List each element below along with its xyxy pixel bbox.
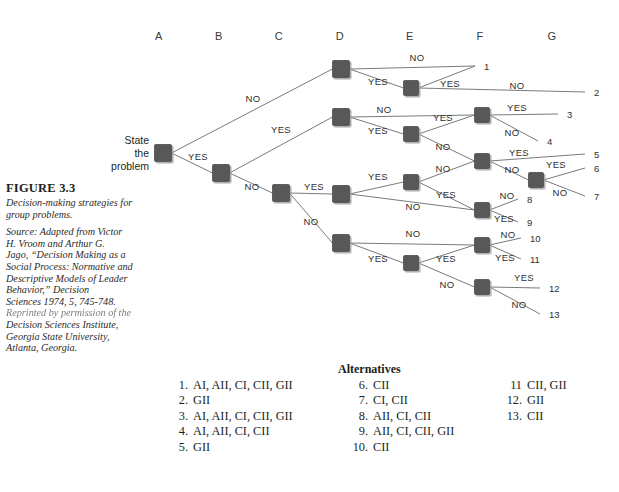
edge-label-yes-F5-out12: YES bbox=[514, 272, 534, 283]
alternative-text: CI, CII bbox=[368, 393, 408, 407]
decision-node-F4[interactable] bbox=[475, 238, 490, 253]
alternative-item-2: 2.GII bbox=[174, 393, 293, 408]
decision-node-C[interactable] bbox=[273, 185, 290, 202]
edge-label-yes-A-B: YES bbox=[188, 151, 208, 162]
edge-label-no-F4-out10: NO bbox=[501, 229, 516, 240]
edge-label-yes-F2-out5: YES bbox=[509, 147, 529, 158]
alternative-number: 7. bbox=[348, 393, 368, 408]
decision-node-B[interactable] bbox=[213, 165, 230, 182]
alternative-text: GII bbox=[188, 440, 210, 454]
decision-node-F5[interactable] bbox=[475, 280, 490, 295]
decision-node-D1[interactable] bbox=[333, 61, 350, 78]
edge-label-no-G1-out7: NO bbox=[553, 187, 568, 198]
edge-label-yes-E3-F3: YES bbox=[436, 189, 456, 200]
source-line-8: Reprinted by permission of the bbox=[6, 307, 131, 318]
alternative-item-10: 10.CII bbox=[348, 440, 454, 455]
alternative-item-11: 11CII, GII bbox=[502, 378, 567, 393]
decision-node-F1[interactable] bbox=[475, 108, 490, 123]
decision-node-G1[interactable] bbox=[529, 173, 544, 188]
alternatives-heading: Alternatives bbox=[338, 362, 401, 377]
tree-edge-C-D3 bbox=[290, 193, 333, 194]
source-line-11: Atlanta, Georgia. bbox=[6, 342, 77, 353]
figure-title: Decision-making strategies for group pro… bbox=[6, 197, 156, 220]
edge-label-no-F3-out8: NO bbox=[500, 190, 515, 201]
outcome-number-3: 3 bbox=[567, 109, 572, 120]
edge-label-no-D4-F4: NO bbox=[406, 228, 421, 239]
decision-node-E2[interactable] bbox=[404, 127, 419, 142]
alternative-item-1: 1.AI, AII, CI, CII, GII bbox=[174, 378, 293, 393]
outcome-number-10: 10 bbox=[530, 233, 541, 244]
edge-label-yes-F1-out3: YES bbox=[507, 102, 527, 113]
alternative-number: 8. bbox=[348, 409, 368, 424]
outcome-number-1: 1 bbox=[484, 61, 489, 72]
edge-label-no-E3-F2: NO bbox=[436, 163, 451, 174]
edge-label-no-D2-F1: NO bbox=[377, 104, 392, 115]
decision-node-E3[interactable] bbox=[404, 175, 419, 190]
edge-label-no-F5-out13: NO bbox=[512, 299, 527, 310]
source-line-7: Sciences 1974, 5, 745-748. bbox=[6, 296, 116, 307]
decision-node-D3[interactable] bbox=[333, 186, 350, 203]
alternatives-column-2: 6.CII7.CI, CII8.AII, CI, CII9.AII, CI, C… bbox=[348, 378, 454, 455]
root-label-layer: Statetheproblem bbox=[111, 134, 149, 172]
edge-label-yes-D3-E3: YES bbox=[368, 171, 388, 182]
alternatives-column-3: 11CII, GII12.GII13.CII bbox=[502, 378, 567, 424]
decision-node-A[interactable] bbox=[155, 145, 172, 162]
alternative-number: 2. bbox=[174, 393, 188, 408]
edge-label-no-E1-out2: NO bbox=[510, 80, 525, 91]
decision-node-F3[interactable] bbox=[475, 203, 490, 218]
edge-label-no-B-C: NO bbox=[245, 181, 260, 192]
alternative-text: AII, CI, CII bbox=[368, 409, 431, 423]
outcome-number-12: 12 bbox=[549, 283, 560, 294]
alternative-number: 9. bbox=[348, 424, 368, 439]
decision-node-E1[interactable] bbox=[404, 81, 419, 96]
alternatives-column-1: 1.AI, AII, CI, CII, GII2.GII3.AI, AII, C… bbox=[174, 378, 293, 455]
outcome-number-4: 4 bbox=[547, 136, 552, 147]
outcome-number-11: 11 bbox=[530, 254, 540, 265]
source-line-2: H. Vroom and Arthur G. bbox=[6, 238, 105, 249]
alternative-text: AI, AII, CI, CII bbox=[188, 424, 270, 438]
edge-label-no-C-D4: NO bbox=[304, 216, 319, 227]
outcome-number-6: 6 bbox=[594, 163, 599, 174]
source-line-1: Source: Adapted from Victor bbox=[6, 226, 122, 237]
figure-3-3: ABCDEFG NOYESYESNOYESNONOYESYESNONOYESYE… bbox=[0, 0, 619, 492]
root-node-label-line-3: problem bbox=[111, 160, 149, 172]
edge-label-no-A-D1: NO bbox=[246, 93, 261, 104]
decision-node-E4[interactable] bbox=[404, 256, 419, 271]
alternative-item-6: 6.CII bbox=[348, 378, 454, 393]
edge-label-yes-D2-E2: YES bbox=[368, 125, 388, 136]
outcome-number-13: 13 bbox=[549, 309, 560, 320]
root-node-label-line-1: State bbox=[124, 134, 149, 146]
alternative-number: 12. bbox=[502, 393, 522, 408]
tree-edge-F5-out12 bbox=[490, 287, 541, 288]
edge-label-yes-D1-E1: YES bbox=[368, 76, 388, 87]
alternative-number: 3. bbox=[174, 409, 188, 424]
figure-source: Source: Adapted from Victor H. Vroom and… bbox=[6, 226, 156, 354]
alternative-item-12: 12.GII bbox=[502, 393, 567, 408]
alternative-item-4: 4.AI, AII, CI, CII bbox=[174, 424, 293, 439]
tree-edge-A-D1 bbox=[172, 69, 333, 153]
source-line-10: Georgia State University, bbox=[6, 331, 109, 342]
alternative-number: 11 bbox=[502, 378, 522, 393]
outcome-number-8: 8 bbox=[527, 194, 532, 205]
tree-edge-D4-F4 bbox=[350, 243, 475, 245]
outcome-number-7: 7 bbox=[594, 191, 599, 202]
alternative-item-3: 3.AI, AII, CI, CII, GII bbox=[174, 409, 293, 424]
alternative-number: 13. bbox=[502, 409, 522, 424]
edge-label-no-D3-F3: NO bbox=[406, 201, 421, 212]
alternative-text: CII bbox=[368, 378, 389, 392]
edge-label-yes-F4-out11: YES bbox=[495, 252, 515, 263]
alternative-number: 6. bbox=[348, 378, 368, 393]
alternative-text: GII bbox=[188, 393, 210, 407]
alternative-text: AI, AII, CI, CII, GII bbox=[188, 409, 293, 423]
tree-edge-D1-out1 bbox=[350, 66, 476, 69]
edge-label-no-F1-out4: NO bbox=[505, 127, 520, 138]
decision-node-F2[interactable] bbox=[475, 154, 490, 169]
decision-node-D2[interactable] bbox=[333, 109, 350, 126]
outcome-number-9: 9 bbox=[527, 217, 532, 228]
outcome-number-5: 5 bbox=[594, 149, 599, 160]
source-line-6: Behavior,” Decision bbox=[6, 284, 89, 295]
alternative-item-7: 7.CI, CII bbox=[348, 393, 454, 408]
tree-edge-F1-out3 bbox=[490, 114, 559, 115]
source-line-3: Jago, “Decision Making as a bbox=[6, 249, 126, 260]
decision-node-D4[interactable] bbox=[333, 235, 350, 252]
